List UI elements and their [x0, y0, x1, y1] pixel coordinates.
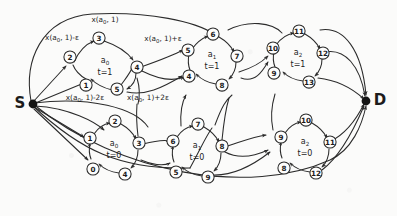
node-circle[interactable]: 10	[300, 114, 312, 126]
cluster-a2-t0-agent: a2	[301, 137, 309, 147]
node-circle[interactable]: 4	[119, 168, 131, 180]
svg-text:8: 8	[219, 81, 224, 90]
svg-text:13: 13	[304, 78, 314, 87]
node-circle[interactable]: 2	[64, 51, 76, 63]
node-circle[interactable]: 7	[231, 50, 243, 62]
node-circle[interactable]: 11	[324, 136, 336, 148]
svg-text:2: 2	[67, 53, 72, 62]
svg-text:10: 10	[268, 44, 278, 53]
svg-text:9: 9	[205, 173, 210, 182]
svg-text:7: 7	[195, 120, 200, 129]
cluster-a1-t1-agent: a1	[208, 50, 217, 60]
node-circle[interactable]: 3	[93, 32, 105, 44]
svg-text:3: 3	[96, 34, 101, 43]
svg-text:9: 9	[278, 133, 283, 142]
node-circle[interactable]: 5	[111, 83, 123, 95]
svg-text:8: 8	[219, 142, 224, 151]
svg-text:6: 6	[170, 137, 175, 146]
svg-text:3: 3	[136, 139, 141, 148]
node-circle[interactable]: 8	[278, 162, 290, 174]
node-circle[interactable]: 4	[131, 61, 143, 73]
svg-text:5: 5	[173, 168, 178, 177]
node-circle[interactable]: 12	[317, 47, 329, 59]
node-circle[interactable]: 6	[207, 28, 219, 40]
node-circle[interactable]: 0	[87, 163, 99, 175]
cluster-a0-t1-agent: a0	[101, 56, 110, 66]
svg-text:0: 0	[90, 165, 95, 174]
node-circle[interactable]: 1	[84, 132, 96, 144]
svg-text:8: 8	[281, 164, 286, 173]
node-circle[interactable]: 1	[80, 79, 92, 91]
node-circle[interactable]: 9	[202, 171, 214, 183]
cross-edges-bottom	[141, 135, 270, 175]
cluster-a2-t1-agent: a2	[294, 48, 302, 58]
svg-text:5: 5	[185, 46, 190, 55]
node-circle[interactable]: 13	[303, 76, 315, 88]
svg-text:4: 4	[186, 72, 191, 81]
svg-text:5: 5	[114, 85, 119, 94]
svg-text:12: 12	[311, 169, 321, 178]
svg-text:1: 1	[83, 81, 88, 90]
sink-label: D	[374, 91, 386, 109]
svg-text:10: 10	[301, 116, 311, 125]
sink-top-edges	[318, 30, 366, 99]
edge-label-lower-left: x(a0, 1)-2ε	[66, 93, 104, 103]
cluster-a2-t0-time: t=0	[298, 149, 313, 158]
svg-text:1: 1	[87, 134, 92, 143]
node-circle[interactable]: 11	[293, 25, 305, 37]
node-circle[interactable]: 3	[133, 137, 145, 149]
cluster-a2-t1-time: t=1	[291, 60, 306, 69]
node-circle[interactable]: 9	[275, 131, 287, 143]
node-circle[interactable]: 5	[170, 166, 182, 178]
node-circle[interactable]: 12	[310, 167, 322, 179]
edge-label-lower-right: x(a0, 1)+2ε	[127, 93, 169, 103]
source-edges	[33, 66, 148, 160]
svg-text:4: 4	[134, 63, 139, 72]
svg-text:2: 2	[112, 117, 117, 126]
edge-label-upper-left: x(a0, 1)-ε	[45, 33, 79, 43]
node-circle[interactable]: 4	[183, 70, 195, 82]
svg-text:12: 12	[318, 49, 328, 58]
node-circle[interactable]: 6	[167, 135, 179, 147]
cluster-a0-t0-time: t=0	[107, 151, 122, 160]
cluster-a1-t0-time: t=0	[190, 153, 205, 162]
edge-label-top-center: x(a0, 1)	[91, 15, 118, 25]
cluster-a1-t1-time: t=1	[205, 62, 220, 71]
svg-text:6: 6	[210, 30, 215, 39]
diagram-canvas: a0 t=1 a1 t=1 a2 t=1 a0 t=0 a1 t=0 a2 t=…	[0, 0, 397, 216]
node-circle[interactable]: 5	[182, 44, 194, 56]
node-circle[interactable]: 7	[192, 118, 204, 130]
svg-text:7: 7	[234, 52, 239, 61]
node-circle[interactable]: 8	[216, 79, 228, 91]
cluster-a0-t0-agent: a0	[110, 139, 119, 149]
svg-text:11: 11	[325, 138, 335, 147]
svg-text:11: 11	[294, 27, 304, 36]
svg-text:9: 9	[271, 69, 276, 78]
cluster-a0-t1-time: t=1	[98, 68, 113, 77]
network-graph: a0 t=1 a1 t=1 a2 t=1 a0 t=0 a1 t=0 a2 t=…	[0, 0, 397, 216]
source-label: S	[15, 94, 26, 112]
edge-label-upper-right: x(a0, 1)+ε	[144, 34, 181, 44]
svg-text:4: 4	[122, 170, 127, 179]
node-circle[interactable]: 10	[267, 42, 279, 54]
node-circle[interactable]: 8	[216, 140, 228, 152]
node-circle[interactable]: 9	[268, 67, 280, 79]
sink-terminal[interactable]: D	[362, 91, 387, 109]
node-circle[interactable]: 2	[109, 115, 121, 127]
cluster-a2-t1-edges	[273, 33, 322, 81]
cluster-a1-t0-agent: a1	[193, 141, 202, 151]
